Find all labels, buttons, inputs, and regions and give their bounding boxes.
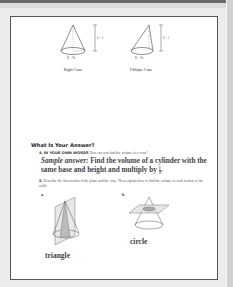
answer-end: . xyxy=(161,166,163,174)
cone-horizontal-plane-icon xyxy=(127,195,172,233)
oblique-cone-caption: Oblique Cone xyxy=(111,67,171,72)
question-4: 4. IN YOUR OWN WORDS How can you find th… xyxy=(39,151,148,155)
question-4-number: 4. xyxy=(39,151,43,155)
worksheet-page: h = 5 B = 9π Right Cone h = 5 B = 9π Obl… xyxy=(10,16,218,280)
question-4-answer: Sample answer: Find the volume of a cyli… xyxy=(41,157,211,175)
answer-prefix: Sample answer: xyxy=(41,157,88,165)
question-5-number: 5. xyxy=(39,179,43,183)
right-cone-caption: Right Cone xyxy=(43,67,103,72)
cone-vertical-plane-icon xyxy=(45,197,85,247)
part-b-answer: circle xyxy=(130,237,147,246)
right-cone-figure: h = 5 B = 9π xyxy=(49,21,109,65)
top-bar-shadow xyxy=(0,3,227,8)
part-a-answer: triangle xyxy=(45,251,70,260)
question-5-prompt: Describe the intersection of the plane a… xyxy=(39,179,203,188)
oblique-cone-base-label: B = 9π xyxy=(135,56,143,60)
part-b-label: b. xyxy=(122,192,125,197)
question-4-lead: IN YOUR OWN WORDS xyxy=(44,151,89,155)
oblique-cone-icon xyxy=(119,21,179,65)
right-cone-icon xyxy=(49,21,109,65)
vertical-scrollbar[interactable] xyxy=(227,0,233,287)
question-4-prompt: How can you find the volume of a cone? xyxy=(89,151,147,155)
oblique-cone-height-label: h = 5 xyxy=(163,36,169,40)
oblique-cone-figure: h = 5 B = 9π xyxy=(119,21,179,65)
section-title: What Is Your Answer? xyxy=(31,142,95,148)
question-5: 5. Describe the intersection of the plan… xyxy=(39,179,209,189)
right-cone-height-label: h = 5 xyxy=(97,36,103,40)
right-cone-base-label: B = 9π xyxy=(67,56,75,60)
part-a-label: a. xyxy=(41,192,44,197)
